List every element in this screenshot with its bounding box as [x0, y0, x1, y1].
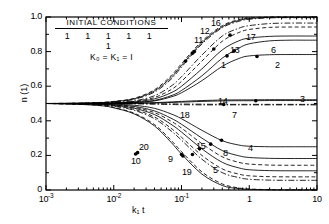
marker-11 — [184, 59, 188, 63]
curve-label-15: 15 — [196, 141, 206, 151]
curve-label-7: 7 — [232, 110, 237, 120]
marker-17 — [228, 33, 232, 37]
curve-label-13: 13 — [230, 45, 240, 55]
legend-constants: K₀ = K₁ = I — [55, 51, 168, 62]
y-tick-label-0: 0 — [14, 184, 42, 194]
curve-label-8: 8 — [223, 148, 228, 158]
curve-label-5: 5 — [213, 165, 218, 175]
marker-2 — [255, 55, 259, 59]
marker-12 — [193, 50, 197, 54]
x-axis-title: k₁ t — [132, 205, 145, 215]
y-tick-label-5: 1.0 — [14, 11, 42, 21]
marker-1 — [225, 54, 229, 58]
curve-label-17: 17 — [246, 32, 256, 42]
curve-label-19: 19 — [182, 167, 192, 177]
curve-label-18: 18 — [180, 110, 190, 120]
marker-4 — [220, 138, 224, 142]
curve-label-6: 6 — [271, 45, 276, 55]
x-tick-label-3: 1 — [233, 194, 265, 204]
marker-13 — [212, 47, 216, 51]
legend-title: INITIAL CONDITIONS — [55, 18, 168, 29]
curve-label-10: 10 — [131, 156, 141, 166]
x-tick-label-1: 10-2 — [98, 194, 130, 204]
curve-label-20: 20 — [139, 142, 149, 152]
curve-label-2: 2 — [275, 60, 280, 70]
y-tick-label-4: 0.8 — [14, 46, 42, 56]
marker-19 — [181, 154, 185, 158]
x-tick-label-2: 10-1 — [166, 194, 198, 204]
curve-label-4: 4 — [248, 143, 253, 153]
y-axis-title: n (1) — [19, 71, 29, 115]
x-tick-label-4: 10 — [301, 194, 329, 204]
curve-label-14: 14 — [218, 96, 228, 106]
curve-label-11: 11 — [194, 35, 203, 45]
x-tick-label-0: 10-3 — [30, 194, 62, 204]
marker-3 — [254, 99, 258, 103]
curve-label-16: 16 — [211, 18, 221, 28]
marker-8 — [209, 142, 213, 146]
legend-initial-values: 1 1 1 1 1 1 — [55, 29, 168, 51]
curve-label-9: 9 — [168, 154, 173, 164]
y-tick-label-2: 0.4 — [14, 115, 42, 125]
legend-initial-conditions: INITIAL CONDITIONS 1 1 1 1 1 1 K₀ = K₁ =… — [55, 18, 168, 62]
figure-container: 0 0.2 0.4 0.6 0.8 1.0 10-3 10-2 10-1 1 1… — [0, 0, 329, 224]
curve-label-3: 3 — [300, 94, 305, 104]
curve-label-1: 1 — [221, 60, 226, 70]
y-tick-label-1: 0.2 — [14, 149, 42, 159]
marker-5 — [191, 153, 195, 157]
